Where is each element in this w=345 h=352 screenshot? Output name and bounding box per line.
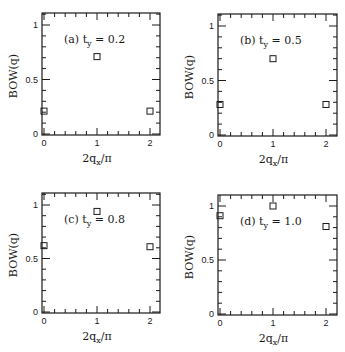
x-axis-label: 2qx/π bbox=[82, 152, 112, 167]
x-tick-label: 0 bbox=[217, 318, 222, 328]
x-tick-label: 2 bbox=[323, 318, 328, 328]
data-point-square bbox=[147, 244, 153, 250]
panel-c: 01200.512qx/πBOW(q)(c) ty = 0.8 bbox=[7, 193, 160, 345]
y-tick-label: 0.5 bbox=[25, 254, 38, 264]
x-tick-label: 2 bbox=[147, 138, 152, 148]
data-point-square bbox=[94, 54, 100, 60]
y-tick-label: 1 bbox=[33, 200, 38, 210]
y-tick-label: 0 bbox=[33, 129, 38, 139]
x-tick-label: 0 bbox=[41, 138, 46, 148]
data-point-square bbox=[270, 56, 276, 62]
y-tick-label: 1 bbox=[209, 201, 214, 211]
y-axis-label: BOW(q) bbox=[183, 235, 196, 279]
y-axis-label: BOW(q) bbox=[7, 54, 20, 98]
axes-frame bbox=[218, 14, 337, 136]
panel-annotation: (a) ty = 0.2 bbox=[64, 33, 125, 48]
x-tick-label: 1 bbox=[94, 138, 99, 148]
y-tick-label: 0.5 bbox=[201, 255, 214, 265]
data-point-square bbox=[323, 101, 329, 107]
x-axis-label: 2qx/π bbox=[259, 332, 289, 347]
y-tick-label: 0 bbox=[209, 309, 214, 319]
panel-d: 01200.512qx/πBOW(q)(d) ty = 1.0 bbox=[183, 195, 337, 347]
panel-annotation: (d) ty = 1.0 bbox=[240, 215, 302, 230]
y-tick-label: 0 bbox=[209, 130, 214, 140]
y-tick-label: 1 bbox=[209, 21, 214, 31]
x-axis-label: 2qx/π bbox=[82, 330, 112, 345]
data-point-square bbox=[147, 108, 153, 114]
data-point-square bbox=[323, 224, 329, 230]
x-axis-label: 2qx/π bbox=[259, 153, 289, 168]
figure-2x2-bow-panels: 01200.512qx/πBOW(q)(a) ty = 0.201200.512… bbox=[0, 0, 345, 352]
x-tick-label: 0 bbox=[41, 316, 46, 326]
x-tick-label: 1 bbox=[94, 316, 99, 326]
x-tick-label: 1 bbox=[270, 318, 275, 328]
axes-frame bbox=[42, 13, 160, 135]
panel-b: 01200.512qx/πBOW(q)(b) ty = 0.5 bbox=[183, 14, 337, 168]
y-tick-label: 0.5 bbox=[201, 76, 214, 86]
x-tick-label: 0 bbox=[217, 139, 222, 149]
y-tick-label: 1 bbox=[33, 20, 38, 30]
panel-a: 01200.512qx/πBOW(q)(a) ty = 0.2 bbox=[7, 13, 160, 167]
axes-frame bbox=[218, 195, 337, 315]
data-point-square bbox=[270, 203, 276, 209]
x-tick-label: 1 bbox=[270, 139, 275, 149]
y-axis-label: BOW(q) bbox=[183, 55, 196, 99]
y-axis-label: BOW(q) bbox=[7, 233, 20, 277]
axes-frame bbox=[42, 193, 160, 313]
x-tick-label: 2 bbox=[147, 316, 152, 326]
x-tick-label: 2 bbox=[323, 139, 328, 149]
panel-annotation: (c) ty = 0.8 bbox=[64, 213, 125, 228]
panel-annotation: (b) ty = 0.5 bbox=[240, 34, 302, 49]
y-tick-label: 0 bbox=[33, 307, 38, 317]
y-tick-label: 0.5 bbox=[25, 75, 38, 85]
